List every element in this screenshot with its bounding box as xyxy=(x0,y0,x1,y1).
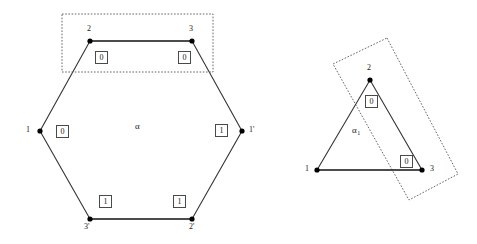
hexagon-vertex-dot-1p xyxy=(239,128,244,133)
hexagon-vertex-label-3: 3 xyxy=(189,25,193,33)
hexagon-vertex-dot-2p xyxy=(189,216,194,221)
triangle-edge-label-right: 0 xyxy=(400,155,413,168)
hexagon-vertex-dot-1 xyxy=(37,128,42,133)
triangle-vertex-dot-1 xyxy=(314,167,319,172)
triangle-dotted-region xyxy=(333,38,458,200)
triangle-vertex-dot-3 xyxy=(419,167,424,172)
hexagon-vertex-label-2: 2 xyxy=(87,25,91,33)
hexagon-region-label-alpha: α xyxy=(135,122,140,131)
geometry-svg xyxy=(0,0,477,244)
triangle-group xyxy=(314,38,458,200)
diagram-canvas: 1 2 3 1' 2' 3' α 0 0 0 1 1 1 1 2 3 α1 0 … xyxy=(0,0,477,244)
triangle-vertex-dot-2 xyxy=(367,77,372,82)
triangle-vertex-label-1: 1 xyxy=(305,165,309,173)
hexagon-vertex-dot-3 xyxy=(189,38,194,43)
hexagon-vertex-label-1: 1 xyxy=(26,126,30,134)
hexagon-vertex-label-2-prime: 2' xyxy=(189,223,194,231)
hexagon-vertex-dot-3p xyxy=(87,216,92,221)
triangle-vertex-label-3: 3 xyxy=(430,165,434,173)
hexagon-outline xyxy=(40,41,242,219)
triangle-edge-label-top: 0 xyxy=(365,95,378,108)
hexagon-edge-label-left: 0 xyxy=(56,125,69,138)
hexagon-vertex-label-1-prime: 1' xyxy=(249,126,254,134)
hexagon-edge-label-bottom-left: 1 xyxy=(99,195,112,208)
hexagon-edge-label-top-right: 0 xyxy=(178,51,191,64)
hexagon-edge-label-bottom-right: 1 xyxy=(173,195,186,208)
triangle-region-label-alpha-1: α1 xyxy=(352,126,360,136)
hexagon-edge-label-right: 1 xyxy=(215,124,228,137)
hexagon-vertex-label-3-prime: 3' xyxy=(84,223,89,231)
triangle-alpha-subscript: 1 xyxy=(357,130,361,136)
triangle-vertex-label-2: 2 xyxy=(367,64,371,72)
hexagon-edge-label-top-left: 0 xyxy=(95,51,108,64)
hexagon-group xyxy=(37,14,244,222)
triangle-alpha-glyph: α xyxy=(352,125,357,135)
hexagon-vertex-dot-2 xyxy=(87,38,92,43)
